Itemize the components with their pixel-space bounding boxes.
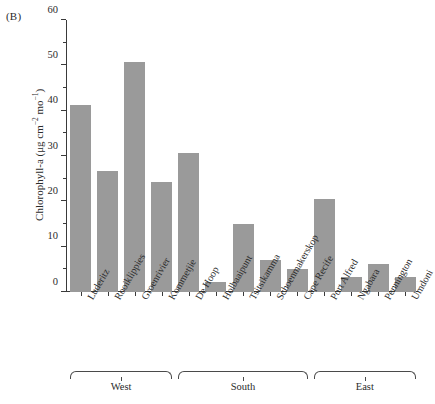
y-tick-major <box>61 155 66 156</box>
x-tick <box>378 292 379 296</box>
group-label: West <box>70 381 172 392</box>
y-tick-label: 30 <box>48 140 59 151</box>
group-bracket: South <box>178 371 307 393</box>
y-tick-minor <box>63 42 66 43</box>
y-tick-label: 20 <box>48 186 59 197</box>
x-tick <box>243 292 244 296</box>
x-tick <box>324 292 325 296</box>
y-tick-major <box>61 200 66 201</box>
x-tick <box>351 292 352 296</box>
x-tick <box>270 292 271 296</box>
x-tick <box>189 292 190 296</box>
y-tick-major <box>61 64 66 65</box>
y-tick-major <box>61 110 66 111</box>
y-tick-label: 0 <box>53 276 58 287</box>
y-tick-minor <box>63 268 66 269</box>
x-tick <box>297 292 298 296</box>
group-label: East <box>314 381 416 392</box>
y-tick-label: 60 <box>48 4 59 15</box>
x-tick <box>81 292 82 296</box>
y-tick-label: 10 <box>48 231 59 242</box>
group-bracket: West <box>70 371 172 393</box>
y-axis-title-suffix: ) <box>33 89 45 93</box>
bar <box>70 105 91 292</box>
y-tick-major <box>61 246 66 247</box>
y-tick-minor <box>63 223 66 224</box>
y-tick-major <box>61 19 66 20</box>
y-axis-title-sup2: −1 <box>31 92 40 100</box>
y-axis-title: Chlorophyll-a (μg cm−2 mo−1) <box>31 25 45 285</box>
group-bracket: East <box>314 371 416 393</box>
y-axis-line <box>66 20 67 292</box>
x-tick <box>108 292 109 296</box>
y-tick-label: 50 <box>48 50 59 61</box>
x-tick <box>216 292 217 296</box>
y-axis-title-mid: mo <box>33 100 45 117</box>
y-tick-label: 40 <box>48 95 59 106</box>
x-tick <box>162 292 163 296</box>
y-tick-minor <box>63 87 66 88</box>
y-tick-minor <box>63 178 66 179</box>
y-axis-title-prefix: Chlorophyll-a (μg cm <box>33 125 45 221</box>
y-axis-title-sup1: −2 <box>31 117 40 125</box>
x-tick <box>405 292 406 296</box>
panel-label: (B) <box>6 10 21 22</box>
plot-area: 0102030405060 <box>66 20 418 292</box>
y-tick-minor <box>63 132 66 133</box>
group-label: South <box>178 381 307 392</box>
y-tick-major <box>61 291 66 292</box>
x-tick <box>135 292 136 296</box>
